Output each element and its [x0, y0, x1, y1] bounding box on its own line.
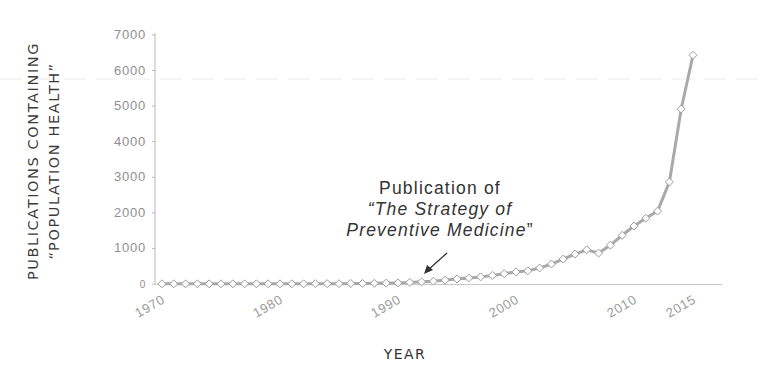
data-point-marker [205, 280, 213, 288]
data-point-marker [665, 178, 673, 186]
data-point-marker [382, 279, 390, 287]
data-point-marker [465, 274, 473, 282]
y-tick-label: 1000 [114, 240, 146, 255]
data-point-marker [347, 279, 355, 287]
data-point-marker [241, 280, 249, 288]
data-point-marker [677, 105, 685, 113]
data-point-marker [193, 280, 201, 288]
y-axis-title: PUBLICATIONS CONTAINING “POPULATION HEAL… [14, 36, 74, 286]
x-tick-label: 2015 [663, 292, 698, 321]
data-point-marker [500, 270, 508, 278]
data-point-marker [370, 279, 378, 287]
data-point-marker [536, 264, 544, 272]
data-point-marker [311, 280, 319, 288]
y-axis: 01000200030004000500060007000 [114, 27, 155, 290]
data-point-marker [335, 280, 343, 288]
y-tick-label: 3000 [114, 169, 146, 184]
data-point-marker [170, 280, 178, 288]
series-line [162, 55, 693, 284]
data-point-marker [288, 280, 296, 288]
data-point-marker [429, 277, 437, 285]
data-point-marker [406, 278, 414, 286]
data-point-marker [583, 246, 591, 254]
x-axis-title: YEAR [384, 346, 427, 362]
annotation-arrow [424, 253, 447, 274]
x-tick-label: 1990 [368, 292, 403, 321]
x-tick-label: 2010 [604, 292, 639, 321]
annotation-line3: Preventive Medicine [346, 220, 526, 240]
x-tick-label: 1970 [132, 292, 167, 321]
y-tick-label: 2000 [114, 205, 146, 220]
x-axis: 197019801990200020102015 [132, 285, 722, 321]
data-point-marker [252, 280, 260, 288]
x-tick-label: 1980 [250, 292, 285, 321]
data-point-marker [229, 280, 237, 288]
data-point-marker [441, 276, 449, 284]
data-point-marker [394, 279, 402, 287]
y-axis-title-line2: “POPULATION HEALTH” [44, 42, 65, 280]
data-point-marker [323, 280, 331, 288]
annotation-line2: “The Strategy of [346, 199, 533, 220]
data-point-marker [477, 273, 485, 281]
data-point-marker [359, 279, 367, 287]
y-tick-label: 0 [140, 279, 146, 290]
data-point-marker [488, 271, 496, 279]
data-point-marker [453, 275, 461, 283]
data-series [158, 51, 697, 288]
annotation-text: Publication of “The Strategy of Preventi… [346, 178, 533, 241]
data-point-marker [276, 280, 284, 288]
data-point-marker [300, 280, 308, 288]
y-tick-label: 6000 [114, 63, 146, 78]
data-point-marker [182, 280, 190, 288]
x-tick-label: 2000 [486, 292, 521, 321]
y-axis-title-line1: PUBLICATIONS CONTAINING [23, 42, 44, 280]
data-point-marker [512, 268, 520, 276]
data-point-marker [264, 280, 272, 288]
y-tick-label: 5000 [114, 98, 146, 113]
data-point-marker [158, 280, 166, 288]
data-point-marker [689, 51, 697, 59]
y-tick-label: 7000 [114, 27, 146, 42]
annotation-line1: Publication of [346, 178, 533, 199]
annotation-close-quote: ” [527, 220, 534, 240]
y-tick-label: 4000 [114, 134, 146, 149]
data-point-marker [217, 280, 225, 288]
data-point-marker [524, 267, 532, 275]
